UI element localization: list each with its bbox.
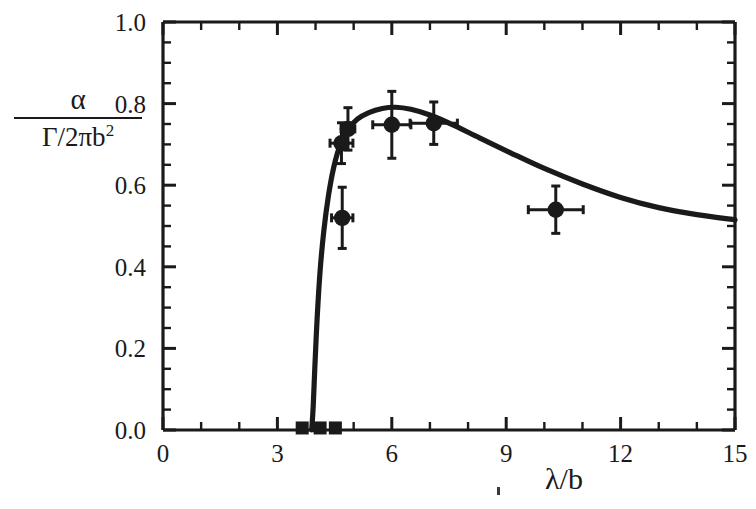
x-tick-label: 6 xyxy=(386,440,399,467)
y-tick-label: 0.2 xyxy=(115,335,146,362)
y-axis-title-numerator: α xyxy=(8,84,148,114)
y-axis-title-denominator-exponent: 2 xyxy=(106,121,115,140)
x-axis-title: λ/b xyxy=(545,462,583,496)
y-axis-title-denominator-base: Γ/2πb xyxy=(42,122,106,152)
data-point-marker xyxy=(384,117,400,133)
baseline-square-marker xyxy=(314,421,327,434)
data-point-marker xyxy=(334,210,350,226)
fraction-rule xyxy=(14,117,142,119)
data-point-marker xyxy=(548,201,564,217)
y-axis-title-denominator: Γ/2πb2 xyxy=(8,122,148,153)
x-tick-label: 12 xyxy=(608,440,633,467)
x-tick-label: 9 xyxy=(500,440,513,467)
data-point-marker xyxy=(340,121,356,137)
y-tick-label: 0.4 xyxy=(115,254,147,281)
stray-mark xyxy=(497,487,500,495)
y-tick-label: 0.0 xyxy=(115,417,146,444)
theory-curve xyxy=(312,107,735,430)
y-axis-title: α Γ/2πb2 xyxy=(8,84,148,153)
x-tick-label: 0 xyxy=(157,440,170,467)
y-tick-label: 1.0 xyxy=(115,9,146,36)
x-tick-label: 15 xyxy=(723,440,748,467)
chart-root: α Γ/2πb2 λ/b 0.00.20.40.60.81.003691215 xyxy=(0,0,756,509)
baseline-square-marker xyxy=(329,421,342,434)
y-tick-label: 0.6 xyxy=(115,172,146,199)
x-tick-label: 3 xyxy=(271,440,284,467)
data-point-marker xyxy=(426,115,442,131)
baseline-square-marker xyxy=(296,421,309,434)
plot-canvas: 0.00.20.40.60.81.003691215 xyxy=(0,0,756,509)
